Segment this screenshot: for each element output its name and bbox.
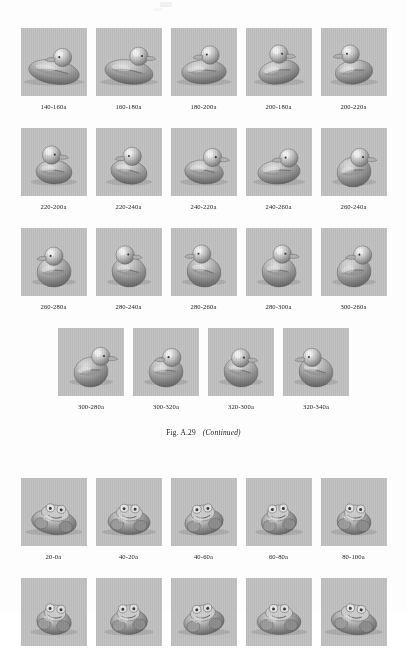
- frog-figurine-view-thumbnail: [321, 478, 387, 546]
- view-angle-label: 40-20a: [119, 553, 138, 560]
- rubber-duck-view-thumbnail: [171, 228, 237, 296]
- row-spacer: [0, 110, 407, 128]
- figure-cell: 160-180a: [96, 28, 162, 110]
- figure-cell: 280-300a: [246, 228, 312, 310]
- row-spacer: [0, 310, 407, 328]
- rubber-duck-view-thumbnail: [21, 28, 87, 96]
- view-angle-label: 240-220a: [190, 203, 216, 210]
- figure-cell: [21, 578, 87, 646]
- view-angle-label: 220-200a: [40, 203, 66, 210]
- view-angle-label: 260-240a: [340, 203, 366, 210]
- rubber-duck-view-thumbnail: [321, 228, 387, 296]
- figure-cell: [96, 578, 162, 646]
- rubber-duck-view-thumbnail: [283, 328, 349, 396]
- rubber-duck-view-thumbnail: [246, 128, 312, 196]
- figure-cell: 140-160a: [21, 28, 87, 110]
- rubber-duck-view-thumbnail: [246, 28, 312, 96]
- rubber-duck-view-thumbnail: [96, 28, 162, 96]
- figure-row: 20-0a 40-20a: [0, 478, 407, 560]
- rubber-duck-view-thumbnail: [171, 28, 237, 96]
- view-angle-label: 200-220a: [340, 103, 366, 110]
- view-angle-label: 260-280a: [40, 303, 66, 310]
- figure-row: [0, 578, 407, 646]
- rubber-duck-view-thumbnail: [208, 328, 274, 396]
- view-angle-label: 300-320a: [153, 403, 179, 410]
- frog-figurine-view-thumbnail: [246, 578, 312, 646]
- view-angle-label: 40-60a: [194, 553, 213, 560]
- figure-caption: Fig. A.29(Continued): [0, 428, 407, 437]
- view-angle-label: 280-240a: [115, 303, 141, 310]
- figure-cell: 200-180a: [246, 28, 312, 110]
- rubber-duck-view-thumbnail: [246, 228, 312, 296]
- frog-figurine-view-thumbnail: [321, 578, 387, 646]
- view-angle-label: 20-0a: [46, 553, 62, 560]
- figure-cell: 220-200a: [21, 128, 87, 210]
- figure-cell: 300-320a: [133, 328, 199, 410]
- figure-cell: 320-300a: [208, 328, 274, 410]
- figure-cell: 240-260a: [246, 128, 312, 210]
- figure-cell: 300-260a: [321, 228, 387, 310]
- rubber-duck-view-thumbnail: [133, 328, 199, 396]
- view-angle-label: 240-260a: [265, 203, 291, 210]
- figure-row: 140-160a: [0, 28, 407, 110]
- figure-cell: 300-280a: [58, 328, 124, 410]
- frog-figurine-view-thumbnail: [171, 578, 237, 646]
- rubber-duck-view-thumbnail: [58, 328, 124, 396]
- figure-cell: 260-240a: [321, 128, 387, 210]
- figure-cell: [171, 578, 237, 646]
- row-spacer: [0, 560, 407, 578]
- figure-row: 260-280a: [0, 228, 407, 310]
- row-spacer: [0, 410, 407, 428]
- view-angle-label: 80-100a: [342, 553, 365, 560]
- frog-figurine-view-thumbnail: [21, 578, 87, 646]
- row-spacer: [0, 646, 407, 650]
- figure-cell: [246, 578, 312, 646]
- figure-cell: 240-220a: [171, 128, 237, 210]
- frog-figurine-view-thumbnail: [96, 578, 162, 646]
- figure-cell: 280-260a: [171, 228, 237, 310]
- view-angle-label: 160-180a: [115, 103, 141, 110]
- row-spacer: [0, 210, 407, 228]
- figure-cell: 40-20a: [96, 478, 162, 560]
- figure-cell: 60-80a: [246, 478, 312, 560]
- figure-cell: 320-340a: [283, 328, 349, 410]
- figure-cell: 280-240a: [96, 228, 162, 310]
- view-angle-label: 300-280a: [78, 403, 104, 410]
- view-angle-label: 320-340a: [303, 403, 329, 410]
- figure-cell: 20-0a: [21, 478, 87, 560]
- frog-figurine-view-thumbnail: [171, 478, 237, 546]
- scan-artifact-speck-secondary: [153, 8, 162, 11]
- rubber-duck-view-thumbnail: [21, 128, 87, 196]
- view-angle-label: 220-240a: [115, 203, 141, 210]
- rubber-duck-view-thumbnail: [321, 28, 387, 96]
- scan-artifact-speck: [160, 2, 172, 7]
- figure-cell: 40-60a: [171, 478, 237, 560]
- figure-row: 220-200a: [0, 128, 407, 210]
- figure-caption-number: Fig. A.29: [166, 428, 196, 437]
- view-angle-label: 320-300a: [228, 403, 254, 410]
- figure-row: 300-280a: [0, 328, 407, 410]
- view-angle-label: 280-300a: [265, 303, 291, 310]
- view-angle-label: 300-260a: [340, 303, 366, 310]
- view-angle-label: 280-260a: [190, 303, 216, 310]
- view-angle-label: 60-80a: [269, 553, 288, 560]
- frog-figurine-view-thumbnail: [246, 478, 312, 546]
- view-angle-label: 140-160a: [40, 103, 66, 110]
- rubber-duck-view-thumbnail: [96, 128, 162, 196]
- figure-cell: 200-220a: [321, 28, 387, 110]
- figure-cell: 180-200a: [171, 28, 237, 110]
- rubber-duck-view-thumbnail: [321, 128, 387, 196]
- view-angle-label: 200-180a: [265, 103, 291, 110]
- figure-next: 20-0a 40-20a: [0, 478, 407, 650]
- rubber-duck-view-thumbnail: [96, 228, 162, 296]
- figure-cell: 260-280a: [21, 228, 87, 310]
- rubber-duck-view-thumbnail: [171, 128, 237, 196]
- rubber-duck-view-thumbnail: [21, 228, 87, 296]
- figure-cell: [321, 578, 387, 646]
- frog-figurine-view-thumbnail: [21, 478, 87, 546]
- figure-a29: 140-160a: [0, 28, 407, 437]
- frog-figurine-view-thumbnail: [96, 478, 162, 546]
- view-angle-label: 180-200a: [190, 103, 216, 110]
- figure-cell: 80-100a: [321, 478, 387, 560]
